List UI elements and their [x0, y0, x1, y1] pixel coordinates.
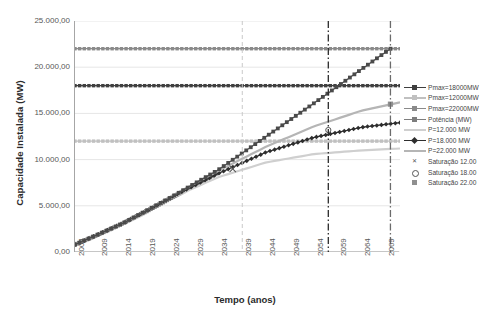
data-marker: [338, 139, 341, 142]
legend-item[interactable]: P=22.000 MW: [404, 146, 494, 157]
data-marker: [312, 101, 316, 105]
data-marker: [203, 84, 206, 87]
data-marker: [180, 47, 183, 50]
data-marker: [87, 139, 90, 142]
y-tick-label: 0,00: [10, 248, 70, 256]
data-marker: [337, 130, 342, 135]
data-marker: [217, 84, 220, 87]
data-marker: [171, 139, 174, 142]
data-marker: [235, 155, 239, 159]
legend-item-label: P=12.000 MW: [426, 126, 470, 133]
data-marker: [236, 47, 239, 50]
data-marker: [166, 47, 169, 50]
data-marker: [138, 47, 141, 50]
data-marker: [370, 84, 373, 87]
data-marker: [217, 47, 220, 50]
data-marker: [195, 180, 199, 184]
data-marker: [334, 85, 338, 89]
data-marker: [375, 47, 378, 50]
data-marker: [374, 123, 379, 128]
data-marker: [324, 84, 327, 87]
data-marker: [181, 188, 185, 192]
data-marker: [231, 47, 234, 50]
data-marker: [110, 139, 113, 142]
data-marker: [250, 84, 253, 87]
legend-key-icon: [404, 178, 426, 186]
data-marker: [152, 84, 155, 87]
data-marker: [124, 84, 127, 87]
data-marker: [159, 201, 163, 205]
data-marker: [273, 47, 276, 50]
legend-item[interactable]: P=12.000 MW: [404, 124, 494, 135]
data-marker: [357, 84, 360, 87]
legend-key-icon: ✕: [404, 156, 426, 166]
data-marker: [347, 139, 350, 142]
data-marker: [129, 139, 132, 142]
data-marker: [292, 47, 295, 50]
legend-key-icon: [404, 125, 426, 135]
data-marker: [231, 139, 234, 142]
legend-item-label: Pmax=18000MW: [426, 84, 479, 91]
data-marker: [171, 47, 174, 50]
legend-item[interactable]: Pmax=12000MW: [404, 93, 494, 104]
legend-item[interactable]: Pmax=18000MW: [404, 82, 494, 93]
data-marker: [120, 139, 123, 142]
data-marker: [303, 108, 307, 112]
data-marker: [277, 146, 282, 151]
data-marker: [199, 139, 202, 142]
legend-item[interactable]: Potência (MW): [404, 114, 494, 125]
data-marker: [398, 47, 400, 50]
data-marker: [124, 47, 127, 50]
data-marker: [305, 84, 308, 87]
data-marker: [285, 120, 289, 124]
data-marker: [289, 117, 293, 121]
data-marker: [273, 84, 276, 87]
data-marker: [123, 220, 127, 224]
legend-item[interactable]: P=18.000 MW: [404, 135, 494, 146]
data-marker: [250, 139, 253, 142]
data-marker: [280, 123, 284, 127]
data-marker: [249, 145, 253, 149]
data-marker: [134, 84, 137, 87]
data-marker: [380, 84, 383, 87]
data-marker: [351, 127, 356, 132]
data-marker: [87, 237, 91, 241]
legend-item-label: P=18.000 MW: [426, 137, 470, 144]
data-marker: [286, 143, 291, 148]
data-marker: [101, 84, 104, 87]
data-marker: [203, 139, 206, 142]
data-marker: [361, 47, 364, 50]
data-marker: [272, 147, 277, 152]
legend-item[interactable]: ✕Saturação 12.00: [404, 156, 494, 167]
data-marker: [282, 144, 287, 149]
x-tick-label: 2054: [317, 238, 325, 256]
data-marker: [323, 133, 328, 138]
data-marker: [78, 139, 81, 142]
data-marker: [168, 196, 172, 200]
data-marker: [278, 47, 281, 50]
data-marker: [78, 84, 81, 87]
data-marker: [101, 47, 104, 50]
data-marker: [315, 84, 318, 87]
data-marker: [268, 47, 271, 50]
data-marker: [115, 139, 118, 142]
data-marker: [366, 63, 370, 67]
data-marker: [190, 183, 194, 187]
data-marker: [213, 47, 216, 50]
data-marker: [271, 130, 275, 134]
data-marker: [166, 84, 169, 87]
data-marker: [152, 47, 155, 50]
data-marker: [114, 225, 118, 229]
legend-item[interactable]: Saturação 22.00: [404, 177, 494, 186]
x-tick-label: 2004: [78, 238, 86, 256]
data-marker: [143, 139, 146, 142]
data-marker: [253, 142, 257, 146]
legend-item[interactable]: Saturação 18.00: [404, 167, 494, 178]
data-marker: [217, 139, 220, 142]
data-marker: [199, 84, 202, 87]
legend-item[interactable]: Pmax=22000MW: [404, 103, 494, 114]
data-marker: [321, 95, 325, 99]
data-marker: [245, 139, 248, 142]
data-marker: [96, 233, 100, 237]
data-marker: [315, 139, 318, 142]
